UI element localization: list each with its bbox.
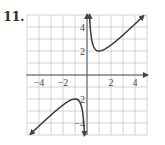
y-tick-label: 2	[80, 46, 85, 57]
x-tick-label: 4	[133, 77, 138, 88]
x-tick-label: 2	[109, 77, 114, 88]
axes	[26, 14, 148, 135]
right-branch-curve	[89, 14, 144, 51]
function-graph: −4−22442−2−4	[0, 0, 165, 145]
x-tick-label: −2	[58, 77, 69, 88]
y-tick-label: 4	[80, 22, 85, 33]
x-tick-label: −4	[34, 77, 45, 88]
